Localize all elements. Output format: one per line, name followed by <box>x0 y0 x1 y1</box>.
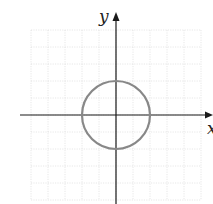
x-axis-label: x <box>207 118 213 138</box>
coordinate-plane: y x <box>0 0 213 204</box>
y-axis-label: y <box>98 6 109 26</box>
y-axis-arrow-icon <box>113 12 120 21</box>
